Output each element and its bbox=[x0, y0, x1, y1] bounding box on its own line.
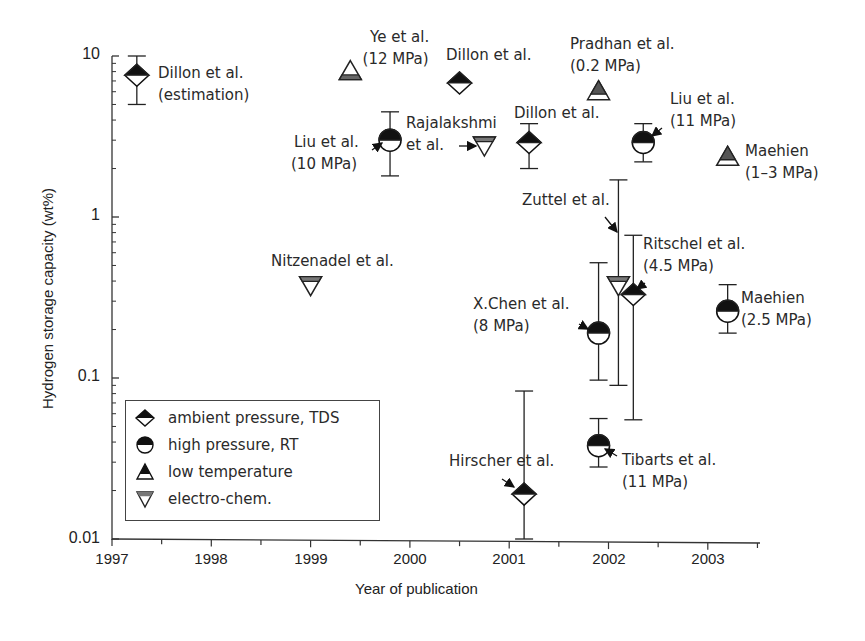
y-tick-1: 1 bbox=[50, 206, 100, 224]
data-point-marker bbox=[621, 284, 645, 306]
label-maehien-1-3mpa: Maehien(1–3 MPa) bbox=[745, 140, 819, 184]
legend-item-electro: electro-chem. bbox=[126, 488, 272, 510]
data-point-marker bbox=[588, 435, 610, 457]
x-tick-2001: 2001 bbox=[479, 550, 539, 567]
legend-item-lowtemp: low temperature bbox=[126, 461, 293, 483]
label-pradhan: Pradhan et al.(0.2 MPa) bbox=[570, 33, 675, 77]
label-dillon-estimation: Dillon et al.(estimation) bbox=[158, 62, 249, 106]
label-liu-11mpa: Liu et al.(11 MPa) bbox=[670, 88, 736, 132]
y-tick-10: 10 bbox=[50, 45, 100, 63]
data-point-marker bbox=[717, 300, 739, 322]
x-tick-1997: 1997 bbox=[82, 550, 142, 567]
data-point-marker bbox=[517, 132, 541, 154]
data-point-marker bbox=[588, 322, 610, 344]
data-point-marker bbox=[300, 277, 322, 296]
label-dillon-2000: Dillon et al. bbox=[446, 44, 532, 66]
y-tick-0.1: 0.1 bbox=[50, 367, 100, 385]
label-zuttel: Zuttel et al. bbox=[522, 189, 610, 211]
x-axis-title: Year of publication bbox=[355, 580, 478, 597]
data-point-marker bbox=[448, 72, 472, 94]
label-rajalakshmi: Rajalakshmiet al. bbox=[406, 112, 497, 156]
triangle-up-half-filled-icon bbox=[134, 461, 156, 483]
data-point-marker bbox=[512, 483, 536, 505]
legend: ambient pressure, TDS high pressure, RT … bbox=[125, 400, 380, 521]
x-tick-1999: 1999 bbox=[281, 550, 341, 567]
y-tick-0.01: 0.01 bbox=[50, 529, 100, 547]
triangle-down-half-filled-icon bbox=[134, 488, 156, 510]
circle-half-filled-icon bbox=[134, 434, 156, 456]
x-axis bbox=[112, 539, 760, 543]
label-dillon-2001: Dillon et al. bbox=[514, 102, 600, 124]
data-point-marker bbox=[379, 129, 401, 151]
x-tick-1998: 1998 bbox=[181, 550, 241, 567]
data-point-marker bbox=[632, 132, 654, 154]
label-liu-10mpa: Liu et al.(10 MPa) bbox=[291, 131, 359, 175]
x-tick-2002: 2002 bbox=[579, 550, 639, 567]
x-tick-2000: 2000 bbox=[380, 550, 440, 567]
data-point-marker bbox=[717, 146, 739, 165]
label-maehien-2.5mpa: Maehien(2.5 MPa) bbox=[741, 287, 812, 331]
label-hirscher: Hirscher et al. bbox=[449, 450, 554, 472]
y-axis bbox=[112, 56, 119, 540]
diamond-half-filled-icon bbox=[134, 407, 156, 429]
data-point-marker bbox=[125, 64, 149, 86]
legend-item-high: high pressure, RT bbox=[126, 434, 298, 456]
y-axis-title: Hydrogen storage capacity (wt%) bbox=[39, 179, 56, 419]
data-point-marker bbox=[588, 81, 610, 100]
label-xchen: X.Chen et al.(8 MPa) bbox=[473, 293, 570, 337]
label-ye: Ye et al.(12 MPa) bbox=[362, 26, 429, 70]
label-ritschel: Ritschel et al.(4.5 MPa) bbox=[643, 233, 745, 277]
data-point-marker bbox=[339, 61, 361, 80]
x-tick-2003: 2003 bbox=[678, 550, 738, 567]
label-nitzenadel: Nitzenadel et al. bbox=[271, 250, 394, 272]
label-tibarts: Tibarts et al.(11 MPa) bbox=[622, 449, 716, 493]
legend-item-ambient: ambient pressure, TDS bbox=[126, 407, 339, 429]
